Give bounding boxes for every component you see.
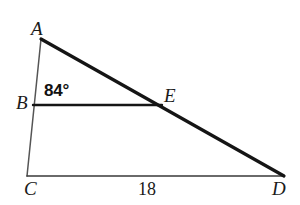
geometry-canvas (0, 0, 300, 205)
segment-AD (41, 39, 284, 176)
vertex-label-d: D (272, 179, 286, 198)
side-length-label: 18 (138, 180, 156, 198)
vertex-label-a: A (31, 19, 43, 38)
angle-measure-label: 84° (44, 82, 69, 99)
geometry-figure: A B C D E 84° 18 (0, 0, 300, 205)
vertex-label-b: B (16, 93, 28, 112)
vertex-label-e: E (164, 86, 176, 105)
vertex-label-c: C (24, 179, 37, 198)
segment-AC (27, 39, 41, 176)
